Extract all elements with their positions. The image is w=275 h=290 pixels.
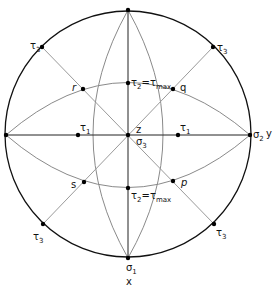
label-p: p	[180, 177, 187, 188]
labels: τ3 τ3 τ3 τ3 τ2=τmax τ2=τmax τ1 τ1 r q s …	[30, 40, 272, 287]
label-sigma2: σ2	[253, 129, 264, 143]
point-tau1-left	[76, 133, 80, 137]
label-y: y	[266, 128, 272, 139]
label-tau3-tr: τ3	[217, 42, 228, 56]
label-r: r	[72, 82, 77, 93]
point-tau2-bottom	[126, 186, 130, 190]
label-tau1-left: τ1	[80, 122, 91, 136]
point-tau3-bl	[41, 222, 45, 226]
label-tau2-bottom: τ2=τmax	[131, 190, 171, 204]
label-tau3-tl: τ3	[30, 40, 41, 54]
arc-right-vertical	[128, 10, 163, 258]
arc-left-vertical	[93, 10, 128, 258]
label-x: x	[126, 276, 132, 287]
point-left	[4, 133, 8, 137]
point-q	[171, 87, 175, 91]
point-sigma2	[248, 133, 252, 137]
label-z: z	[136, 124, 141, 135]
point-sigma1	[126, 256, 130, 260]
point-p	[171, 179, 175, 183]
label-q: q	[180, 82, 186, 93]
label-sigma1: σ1	[126, 262, 137, 276]
label-s: s	[71, 179, 76, 190]
label-tau3-bl: τ3	[33, 231, 44, 245]
point-tau2-top	[126, 81, 130, 85]
stereographic-diagram: τ3 τ3 τ3 τ3 τ2=τmax τ2=τmax τ1 τ1 r q s …	[0, 0, 275, 290]
point-r	[81, 87, 85, 91]
label-tau2-top: τ2=τmax	[131, 77, 171, 91]
point-tau3-br	[212, 222, 216, 226]
point-tau1-right	[176, 133, 180, 137]
point-tau3-tr	[211, 45, 215, 49]
label-tau3-br: τ3	[216, 227, 227, 241]
point-center-sigma3	[126, 133, 130, 137]
point-s	[82, 180, 86, 184]
label-tau1-right: τ1	[180, 122, 191, 136]
point-top	[126, 8, 130, 12]
label-sigma3: σ3	[136, 136, 147, 150]
